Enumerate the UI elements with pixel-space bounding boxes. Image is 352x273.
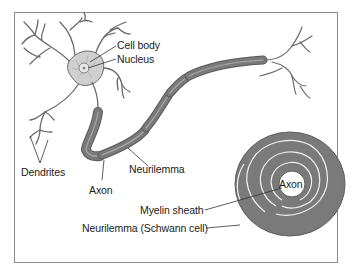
label-cell-body: Cell body — [117, 40, 160, 51]
axon-terminals — [260, 27, 312, 98]
dendrites-pointer-lines — [30, 136, 48, 163]
dendrites-lower-left — [30, 82, 80, 144]
label-nucleus: Nucleus — [117, 54, 154, 65]
label-neurilemma: Neurilemma — [129, 164, 185, 175]
label-axon: Axon — [89, 185, 113, 196]
axon-initial-segment — [92, 82, 98, 108]
myelinated-axon — [86, 60, 263, 156]
label-neurilemma-schwann-cell: Neurilemma (Schwann cell) — [82, 223, 208, 234]
label-myelin-sheath: Myelin sheath — [140, 205, 203, 216]
dendrites-right — [102, 68, 130, 98]
neuron-diagram: Cell body Nucleus Dendrites Axon Neurile… — [0, 0, 352, 273]
label-cross-section-axon: Axon — [279, 179, 303, 190]
label-dendrites: Dendrites — [21, 167, 65, 178]
